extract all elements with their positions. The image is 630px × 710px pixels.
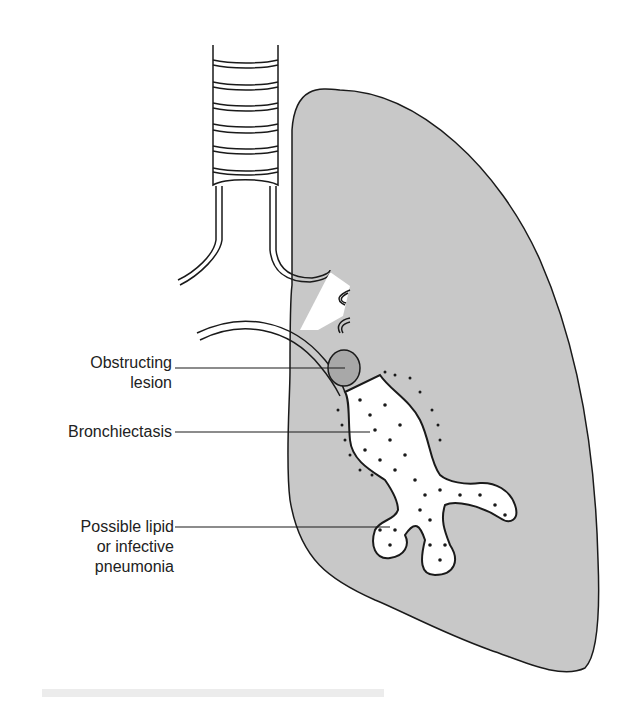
label-line: or infective	[20, 537, 174, 557]
trachea	[213, 45, 278, 185]
label-line: Obstructing	[30, 353, 172, 373]
label-line: Possible lipid	[20, 517, 174, 537]
label-obstructing-lesion: Obstructing lesion	[30, 353, 172, 393]
diagram-figure: Obstructing lesion Bronchiectasis Possib…	[0, 0, 630, 710]
caption-bar	[42, 689, 384, 697]
label-line: lesion	[30, 373, 172, 393]
label-bronchiectasis: Bronchiectasis	[20, 422, 172, 442]
label-pneumonia: Possible lipid or infective pneumonia	[20, 517, 174, 577]
label-line: Bronchiectasis	[20, 422, 172, 442]
label-line: pneumonia	[20, 557, 174, 577]
